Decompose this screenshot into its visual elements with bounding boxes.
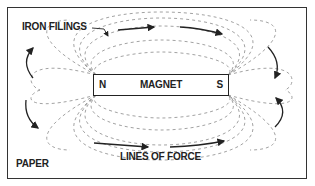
bar-magnet: N MAGNET S	[93, 74, 229, 96]
iron-filings-label: IRON FILINGS	[22, 21, 87, 32]
lines-of-force-label: LINES OF FORCE	[120, 151, 201, 162]
south-pole-label: S	[217, 79, 223, 90]
magnet-label: MAGNET	[94, 79, 228, 90]
paper-label: PAPER	[16, 158, 49, 169]
